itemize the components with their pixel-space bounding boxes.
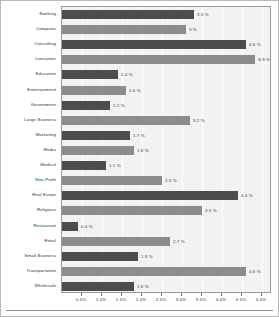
x-tick-label: 2.5%: [156, 297, 166, 302]
bar: [62, 282, 134, 291]
bar-value-label: 3.2 %: [193, 118, 205, 123]
x-tick-mark: [181, 293, 182, 296]
category-label: Small Business: [25, 248, 56, 263]
bar-row: 1.8 %: [62, 279, 270, 294]
x-tick-label: 5.0%: [256, 297, 266, 302]
bar-value-label: 1.7 %: [133, 133, 145, 138]
bar-row: 1.6 %: [62, 83, 270, 98]
category-label: Consumer: [35, 51, 56, 66]
category-label: Government: [31, 97, 56, 112]
bar: [62, 40, 246, 49]
category-label: Medical: [40, 157, 56, 172]
category-label: Marketing: [36, 127, 56, 142]
bar-value-label: 1.4 %: [121, 72, 133, 77]
bar: [62, 146, 134, 155]
bar-row: 0.4 %: [62, 218, 270, 233]
bar: [62, 55, 255, 64]
category-axis-labels: BankingComputerConsultingConsumerEducati…: [0, 6, 59, 293]
category-label: Consulting: [34, 36, 56, 51]
bar: [62, 252, 138, 261]
category-label: Banking: [39, 6, 56, 21]
bar-value-label: 1.1 %: [109, 163, 121, 168]
bar-row: 1.9 %: [62, 249, 270, 264]
bar: [62, 267, 246, 276]
axis-baseline-rule: [6, 310, 273, 311]
bar: [62, 191, 238, 200]
bar: [62, 86, 126, 95]
bar-value-label: 8.9 %: [258, 57, 270, 62]
x-tick-label: 1.0%: [96, 297, 106, 302]
bar-value-label: 2.7 %: [173, 239, 185, 244]
bar-row: 1.7 %: [62, 128, 270, 143]
x-tick-mark: [221, 293, 222, 296]
bar-value-label: 1.2 %: [113, 103, 125, 108]
bar: [62, 222, 78, 231]
bar-value-label: 0.4 %: [81, 224, 93, 229]
bar-row: 1.1 %: [62, 158, 270, 173]
category-label: Religious: [37, 202, 56, 217]
bar-value-label: 3.3 %: [197, 12, 209, 17]
bar-value-label: 4.4 %: [241, 193, 253, 198]
x-tick-mark: [81, 293, 82, 296]
bar-row: 1.4 %: [62, 67, 270, 82]
x-tick-label: 3.0%: [176, 297, 186, 302]
x-axis: 0.5%1.0%1.5%2.0%2.5%3.0%3.5%4.0%4.5%5.0%: [61, 293, 271, 315]
bar-row: 2.5 %: [62, 173, 270, 188]
x-tick-label: 4.0%: [216, 297, 226, 302]
bar-row: 4.6 %: [62, 264, 270, 279]
bar-value-label: 1.8 %: [137, 284, 149, 289]
bar-value-label: 1.8 %: [137, 148, 149, 153]
bar: [62, 161, 106, 170]
bar-row: 8.9 %: [62, 52, 270, 67]
bar-value-label: 3.5 %: [205, 208, 217, 213]
x-tick-mark: [161, 293, 162, 296]
bar-value-label: 3 %: [189, 27, 197, 32]
bar: [62, 101, 110, 110]
bar: [62, 70, 118, 79]
bar: [62, 10, 194, 19]
bar-value-label: 4.6 %: [249, 42, 261, 47]
category-label: Media: [44, 142, 56, 157]
bar-value-label: 1.6 %: [129, 88, 141, 93]
bar: [62, 206, 202, 215]
category-label: Entertainment: [27, 82, 56, 97]
bar-row: 3.2 %: [62, 113, 270, 128]
bar: [62, 131, 130, 140]
bar: [62, 116, 190, 125]
category-label: Large Business: [24, 112, 56, 127]
x-tick-label: 0.5%: [76, 297, 86, 302]
bar: [62, 237, 170, 246]
bar-row: 1.8 %: [62, 143, 270, 158]
bar-rows: 3.3 %3 %4.6 %8.9 %1.4 %1.6 %1.2 %3.2 %1.…: [62, 7, 270, 292]
bar-value-label: 4.6 %: [249, 269, 261, 274]
x-tick-mark: [101, 293, 102, 296]
bar-row: 1.2 %: [62, 98, 270, 113]
category-label: Wholesale: [35, 278, 56, 293]
x-tick-mark: [141, 293, 142, 296]
bar-row: 3.5 %: [62, 203, 270, 218]
bar: [62, 25, 186, 34]
category-label: Non-Profit: [35, 172, 56, 187]
category-label: Education: [36, 66, 56, 81]
x-tick-label: 1.5%: [116, 297, 126, 302]
bar-chart-figure: BankingComputerConsultingConsumerEducati…: [0, 0, 279, 317]
x-tick-mark: [201, 293, 202, 296]
bar-row: 3 %: [62, 22, 270, 37]
category-label: Retail: [44, 233, 56, 248]
x-tick-mark: [121, 293, 122, 296]
x-tick-label: 3.5%: [196, 297, 206, 302]
plot-area: 3.3 %3 %4.6 %8.9 %1.4 %1.6 %1.2 %3.2 %1.…: [61, 6, 271, 293]
bar-row: 3.3 %: [62, 7, 270, 22]
bar-row: 2.7 %: [62, 234, 270, 249]
x-tick-mark: [241, 293, 242, 296]
category-label: Computer: [36, 21, 56, 36]
bar-row: 4.6 %: [62, 37, 270, 52]
bar-value-label: 2.5 %: [165, 178, 177, 183]
bar-row: 4.4 %: [62, 188, 270, 203]
x-tick-label: 4.5%: [236, 297, 246, 302]
bar-value-label: 1.9 %: [141, 254, 153, 259]
category-label: Transportation: [26, 263, 56, 278]
x-tick-mark: [261, 293, 262, 296]
category-label: Restaurant: [34, 217, 56, 232]
x-tick-label: 2.0%: [136, 297, 146, 302]
